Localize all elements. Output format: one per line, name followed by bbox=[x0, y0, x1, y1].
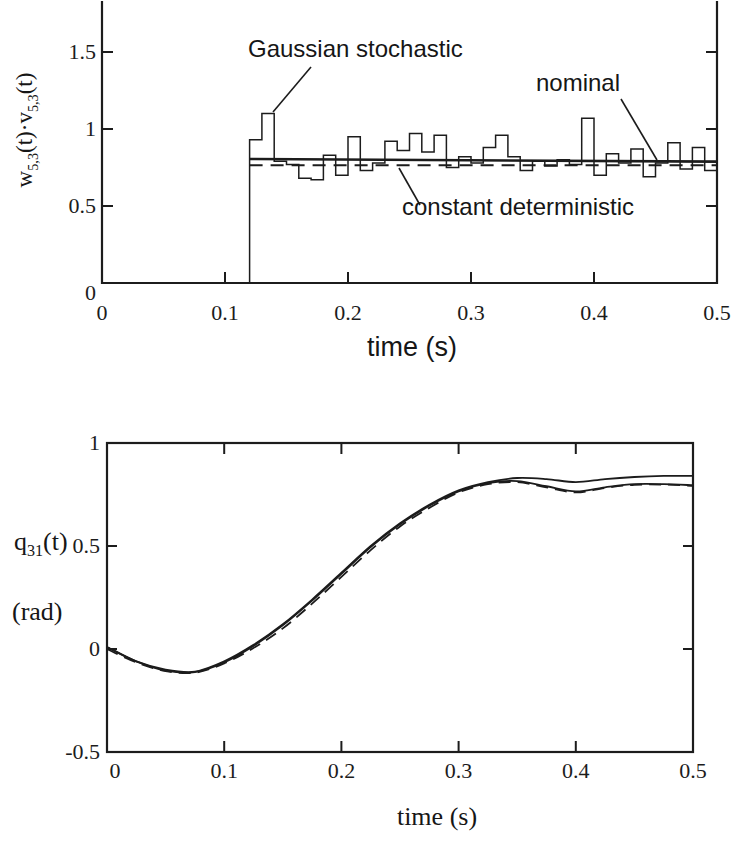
bottom-x-tick-label: 0.2 bbox=[328, 758, 356, 784]
plots-canvas bbox=[0, 0, 744, 843]
top-y-axis-label-subscript: 5,3 bbox=[25, 153, 41, 171]
series-constant-deterministic bbox=[107, 482, 693, 673]
annotation-nominal: nominal bbox=[536, 70, 620, 96]
top-y-axis-label-subscript: 5,3 bbox=[25, 94, 41, 112]
bottom-x-tick-label: 0.3 bbox=[445, 758, 473, 784]
bottom-y-tick-label: 0 bbox=[40, 636, 100, 662]
annotation-gaussian-stochastic: Gaussian stochastic bbox=[248, 36, 463, 62]
series-gaussian-stochastic bbox=[107, 481, 693, 673]
top-y-tick-label: 1 bbox=[36, 116, 96, 142]
bottom-y-axis-label-part: q bbox=[14, 527, 27, 556]
top-x-tick-label: 0.2 bbox=[334, 300, 362, 326]
top-x-tick-label: 0 bbox=[97, 300, 108, 326]
bottom-x-tick-label: 0 bbox=[110, 758, 121, 784]
bottom-chart-axes bbox=[107, 443, 693, 752]
bottom-y-tick-label: 0.5 bbox=[40, 533, 100, 559]
bottom-y-axis-unit: (rad) bbox=[12, 597, 63, 627]
bottom-y-tick-label: 1 bbox=[40, 430, 100, 456]
top-x-tick-label: 0.1 bbox=[211, 300, 239, 326]
top-x-tick-label: 0.5 bbox=[703, 300, 731, 326]
gaussian-leader-line bbox=[273, 67, 311, 112]
top-x-axis-label: time (s) bbox=[367, 332, 457, 363]
bottom-x-tick-label: 0.5 bbox=[679, 758, 707, 784]
bottom-x-tick-label: 0.1 bbox=[210, 758, 238, 784]
top-y-tick-label: 0 bbox=[36, 280, 96, 306]
bottom-x-tick-label: 0.4 bbox=[562, 758, 590, 784]
top-y-axis-label-part: w bbox=[12, 171, 37, 188]
top-y-axis-label-part: (t) bbox=[12, 73, 37, 95]
top-y-tick-label: 0.5 bbox=[36, 193, 96, 219]
top-y-tick-label: 1.5 bbox=[36, 39, 96, 65]
annotation-constant-deterministic: constant deterministic bbox=[402, 194, 634, 220]
top-x-tick-label: 0.4 bbox=[580, 300, 608, 326]
bottom-x-axis-label: time (s) bbox=[397, 802, 477, 832]
bottom-chart-series bbox=[107, 476, 693, 673]
series-nominal bbox=[107, 476, 693, 672]
top-y-axis-label-part: (t)·v bbox=[12, 112, 37, 153]
figure-page: w5,3(t)·v5,3(t) 00.511.5 00.10.20.30.40.… bbox=[0, 0, 744, 843]
series-nominal bbox=[250, 159, 717, 162]
top-x-tick-label: 0.3 bbox=[457, 300, 485, 326]
bottom-y-tick-label: -0.5 bbox=[40, 739, 100, 765]
bottom-axis-frame bbox=[107, 443, 693, 752]
nominal-leader-line bbox=[621, 99, 657, 160]
